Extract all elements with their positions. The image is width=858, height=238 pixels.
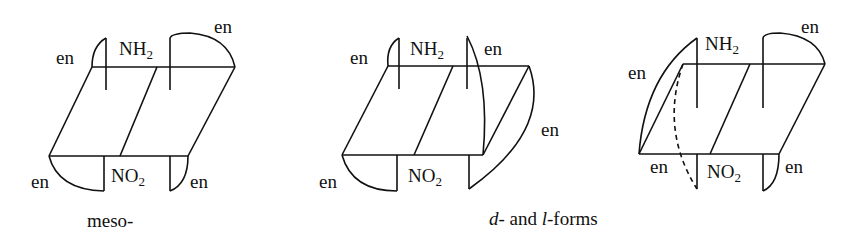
en-label: en: [785, 157, 803, 176]
en-label: en: [214, 17, 232, 36]
en-label: en: [350, 48, 368, 67]
en-label: en: [628, 63, 646, 82]
nitro-group-label: NO2: [111, 166, 145, 185]
en-label: en: [541, 120, 559, 139]
en-label: en: [484, 39, 502, 58]
en-label: en: [56, 48, 74, 67]
amine-group-label: NH2: [705, 34, 739, 53]
en-label: en: [31, 172, 49, 191]
en-label: en: [650, 157, 668, 176]
amine-group-label: NH2: [119, 39, 153, 58]
en-label: en: [319, 172, 337, 191]
nitro-group-label: NO2: [707, 162, 741, 181]
amine-group-label: NH2: [410, 39, 444, 58]
dl-forms-caption: d- and l-forms: [489, 208, 598, 230]
en-label: en: [801, 17, 819, 36]
nitro-group-label: NO2: [408, 166, 442, 185]
meso-caption: meso-: [87, 210, 133, 232]
en-label: en: [190, 172, 208, 191]
